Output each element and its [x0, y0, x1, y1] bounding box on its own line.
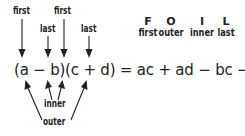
legend-last: L last — [214, 16, 238, 38]
legend-letter-l: L — [214, 16, 238, 27]
foil-equation: (a − b)(c + d) = ac + ad − bc − bd — [14, 62, 245, 78]
arrow-inner-c — [58, 80, 65, 100]
legend-outer: O outer — [154, 16, 188, 38]
label-last-d: last — [81, 24, 96, 34]
legend-word-outer: outer — [157, 27, 185, 38]
label-first-c: first — [54, 6, 71, 16]
arrow-outer-d — [71, 80, 88, 120]
arrow-last-d — [86, 36, 93, 58]
label-first-a: first — [13, 6, 30, 16]
arrow-inner-b — [45, 80, 52, 100]
arrow-first-c — [61, 19, 68, 58]
legend-word-inner: inner — [188, 27, 216, 38]
arrow-last-b — [45, 36, 52, 58]
legend-letter-o: O — [154, 16, 188, 27]
arrow-outer-a — [25, 80, 43, 120]
label-inner: inner — [44, 99, 66, 109]
arrow-first-a — [19, 19, 26, 58]
label-last-b: last — [40, 24, 55, 34]
label-outer: outer — [43, 117, 65, 127]
legend-word-last: last — [216, 27, 236, 38]
